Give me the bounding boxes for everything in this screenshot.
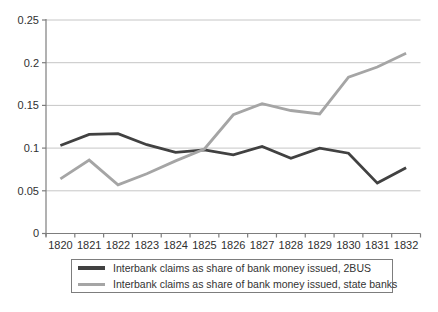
legend-item-state-banks: Interbank claims as share of bank money … xyxy=(78,278,392,291)
series-line-state-banks xyxy=(60,53,406,185)
x-axis-tick-label: 1831 xyxy=(365,239,389,251)
y-axis-tick-label: 0.15 xyxy=(18,99,39,111)
legend-label-state-banks: Interbank claims as share of bank money … xyxy=(113,278,397,290)
y-axis-tick-label: 0.2 xyxy=(24,57,39,69)
legend-label-2bus: Interbank claims as share of bank money … xyxy=(113,262,371,274)
x-axis-tick-label: 1825 xyxy=(192,239,216,251)
x-axis-tick-label: 1824 xyxy=(163,239,187,251)
x-axis-tick-label: 1822 xyxy=(106,239,130,251)
chart-figure: 00.050.10.150.20.25182018211822182318241… xyxy=(0,0,438,312)
x-axis-tick-label: 1821 xyxy=(77,239,101,251)
y-axis-tick-label: 0.1 xyxy=(24,142,39,154)
legend-line-swatch-2bus xyxy=(78,266,105,270)
series-line-2bus xyxy=(60,134,406,184)
y-axis-tick-label: 0 xyxy=(33,227,39,239)
x-axis-tick-label: 1820 xyxy=(48,239,72,251)
legend-line-swatch-state-banks xyxy=(78,283,105,286)
x-axis-tick-label: 1830 xyxy=(336,239,360,251)
x-axis-tick-label: 1827 xyxy=(250,239,274,251)
x-axis-tick-label: 1828 xyxy=(279,239,303,251)
legend-item-2bus: Interbank claims as share of bank money … xyxy=(78,262,392,275)
x-axis-tick-label: 1829 xyxy=(307,239,331,251)
x-axis-tick-label: 1826 xyxy=(221,239,245,251)
y-axis-tick-label: 0.25 xyxy=(18,14,39,26)
x-axis-tick-label: 1823 xyxy=(135,239,159,251)
x-axis-tick-label: 1832 xyxy=(394,239,418,251)
y-axis-tick-label: 0.05 xyxy=(18,185,39,197)
chart-legend: Interbank claims as share of bank money … xyxy=(71,259,393,293)
